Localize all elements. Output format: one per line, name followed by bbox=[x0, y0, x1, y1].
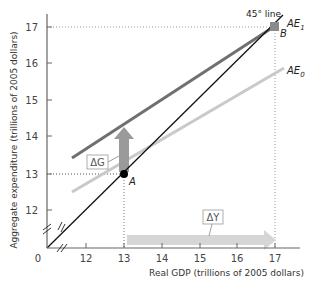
ae1-label: AE1 bbox=[286, 18, 305, 32]
point-b-label: B bbox=[280, 28, 287, 39]
delta-g-leader bbox=[108, 156, 119, 162]
ae0-label: AE0 bbox=[286, 65, 305, 79]
x-tick-13: 13 bbox=[118, 253, 131, 264]
line-45-degree bbox=[47, 15, 283, 248]
x-axis-title: Real GDP (trillions of 2005 dollars) bbox=[149, 268, 304, 278]
ae0-line bbox=[72, 68, 284, 192]
chart-canvas: 12 13 14 15 16 17 12 13 14 15 16 17 0 Re… bbox=[0, 0, 314, 288]
y-tick-15: 15 bbox=[25, 95, 38, 106]
x-tick-17: 17 bbox=[269, 253, 282, 264]
delta-y-arrow bbox=[127, 230, 276, 250]
y-tick-14: 14 bbox=[25, 131, 38, 142]
y-ticks bbox=[47, 27, 52, 210]
point-a bbox=[120, 170, 128, 178]
aggregate-expenditure-chart: 12 13 14 15 16 17 12 13 14 15 16 17 0 Re… bbox=[0, 0, 314, 288]
point-b bbox=[270, 22, 279, 31]
x-tick-12: 12 bbox=[80, 253, 93, 264]
y-tick-16: 16 bbox=[25, 58, 38, 69]
x-tick-15: 15 bbox=[194, 253, 207, 264]
y-tick-12: 12 bbox=[25, 205, 38, 216]
y-tick-13: 13 bbox=[25, 169, 38, 180]
delta-g-label: ΔG bbox=[90, 157, 105, 168]
y-tick-17: 17 bbox=[25, 22, 38, 33]
delta-y-label: ΔY bbox=[207, 212, 221, 223]
x-tick-14: 14 bbox=[156, 253, 169, 264]
line-45-label: 45° line bbox=[246, 9, 282, 19]
x-tick-16: 16 bbox=[231, 253, 244, 264]
origin-label: 0 bbox=[35, 253, 41, 264]
delta-y-leader bbox=[209, 224, 212, 236]
y-axis-title: Aggregate expenditure (trillions of 2005… bbox=[9, 31, 19, 248]
point-a-label: A bbox=[128, 176, 136, 187]
